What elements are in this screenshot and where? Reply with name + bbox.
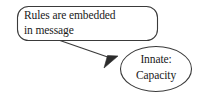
diagram-canvas: Rules are embedded in message Innate: Ca… <box>0 0 200 99</box>
node-rules-line2: in message <box>24 24 74 37</box>
edge-rules-to-innate-arrowhead-icon <box>104 56 118 69</box>
node-innate-line1: Innate: <box>140 53 171 65</box>
diagram-svg: Rules are embedded in message Innate: Ca… <box>0 0 200 99</box>
edge-rules-to-innate-line[interactable] <box>60 41 112 59</box>
node-innate-line2: Capacity <box>136 69 176 82</box>
node-rules-line1: Rules are embedded <box>24 9 116 21</box>
